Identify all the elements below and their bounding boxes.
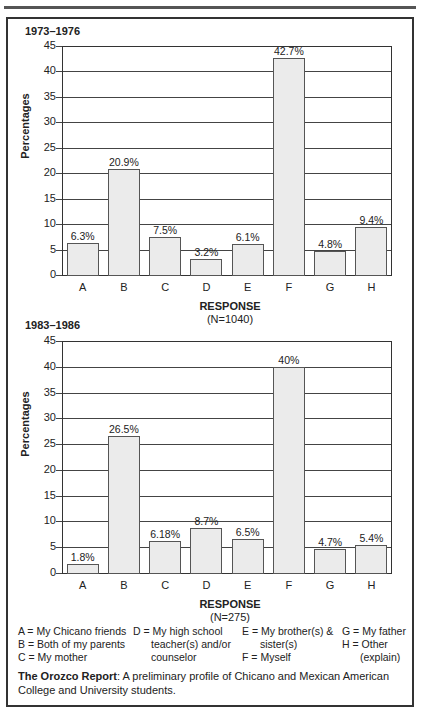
y-tick-label: 40	[34, 64, 56, 76]
bar-c	[149, 541, 181, 574]
x-axis-title: RESPONSE	[150, 598, 310, 610]
bar-e	[232, 539, 264, 574]
legend-item-g: G = My father	[342, 625, 406, 638]
legend-col-1: A = My Chicano friends B = Both of my pa…	[18, 625, 126, 664]
legend-item-h-cont: (explain)	[342, 651, 406, 664]
bar-value-label: 6.1%	[226, 231, 270, 243]
legend-item-d-cont: teacher(s) and/or	[133, 638, 231, 651]
y-axis-label: Percentages	[19, 379, 31, 469]
x-category-label: H	[361, 281, 381, 293]
legend-item-e: E = My brother(s) &	[242, 625, 333, 638]
legend-col-2: D = My high school teacher(s) and/or cou…	[133, 625, 231, 664]
x-category-label: F	[279, 579, 299, 591]
x-category-label: D	[196, 579, 216, 591]
bar-d	[190, 528, 222, 574]
bar-d	[190, 259, 222, 276]
y-tick-mark	[56, 224, 62, 225]
y-tick-label: 5	[34, 243, 56, 255]
y-tick-label: 25	[34, 141, 56, 153]
y-tick-label: 10	[34, 217, 56, 229]
x-category-label: C	[155, 579, 175, 591]
y-tick-label: 45	[34, 39, 56, 51]
y-tick-label: 15	[34, 489, 56, 501]
gridline	[63, 71, 391, 72]
bar-g	[314, 549, 346, 574]
y-tick-mark	[56, 46, 62, 47]
x-category-label: H	[361, 579, 381, 591]
y-tick-mark	[56, 547, 62, 548]
x-category-label: D	[196, 281, 216, 293]
bar-a	[67, 243, 99, 276]
gridline	[63, 97, 391, 98]
gridline	[63, 418, 391, 419]
bar-value-label: 4.8%	[308, 238, 352, 250]
x-axis-sample-size: (N=275)	[150, 611, 310, 623]
y-tick-label: 20	[34, 166, 56, 178]
y-tick-label: 25	[34, 437, 56, 449]
bar-value-label: 8.7%	[184, 515, 228, 527]
gridline	[63, 367, 391, 368]
y-tick-label: 35	[34, 90, 56, 102]
gridline	[63, 122, 391, 123]
bar-value-label: 9.4%	[349, 214, 393, 226]
legend-item-f: F = Myself	[242, 651, 333, 664]
gridline	[63, 393, 391, 394]
bar-value-label: 3.2%	[184, 246, 228, 258]
x-category-label: E	[238, 579, 258, 591]
bar-c	[149, 237, 181, 276]
y-tick-mark	[56, 275, 62, 276]
y-tick-label: 10	[34, 514, 56, 526]
legend-col-3: E = My brother(s) & sister(s) F = Myself	[242, 625, 333, 664]
y-tick-mark	[56, 148, 62, 149]
x-category-label: B	[114, 281, 134, 293]
bar-value-label: 1.8%	[61, 551, 105, 563]
x-category-label: C	[155, 281, 175, 293]
x-category-label: A	[73, 579, 93, 591]
legend-item-e-cont: sister(s)	[242, 638, 333, 651]
y-tick-label: 45	[34, 334, 56, 346]
legend-item-h: H = Other	[342, 638, 406, 651]
y-axis-label: Percentages	[19, 81, 31, 171]
bar-value-label: 5.4%	[349, 532, 393, 544]
x-category-label: A	[73, 281, 93, 293]
y-tick-mark	[56, 122, 62, 123]
bar-b	[108, 169, 140, 276]
legend-item-d-cont2: counselor	[133, 651, 231, 664]
x-axis-sample-size: (N=1040)	[150, 313, 310, 325]
bar-value-label: 4.7%	[308, 536, 352, 548]
bar-b	[108, 436, 140, 574]
y-tick-label: 5	[34, 540, 56, 552]
legend-item-d: D = My high school	[133, 625, 231, 638]
y-tick-mark	[56, 418, 62, 419]
legend-item-c: C = My mother	[18, 651, 126, 664]
x-category-label: G	[320, 281, 340, 293]
y-tick-mark	[56, 573, 62, 574]
y-tick-mark	[56, 521, 62, 522]
y-tick-label: 15	[34, 192, 56, 204]
bar-value-label: 40%	[267, 354, 311, 366]
x-axis-title: RESPONSE	[150, 300, 310, 312]
y-tick-label: 30	[34, 411, 56, 423]
bar-a	[67, 564, 99, 574]
y-tick-mark	[56, 470, 62, 471]
y-tick-mark	[56, 444, 62, 445]
y-tick-label: 40	[34, 360, 56, 372]
bar-value-label: 20.9%	[102, 156, 146, 168]
y-tick-mark	[56, 393, 62, 394]
bar-f	[273, 367, 305, 574]
y-tick-mark	[56, 250, 62, 251]
y-tick-mark	[56, 71, 62, 72]
header-rule	[4, 6, 416, 9]
y-tick-mark	[56, 367, 62, 368]
caption-source-title: The Orozco Report	[18, 670, 117, 682]
bar-value-label: 6.5%	[226, 526, 270, 538]
y-tick-label: 20	[34, 463, 56, 475]
x-category-label: B	[114, 579, 134, 591]
bar-h	[355, 227, 387, 276]
bar-value-label: 6.3%	[61, 230, 105, 242]
legend-item-a: A = My Chicano friends	[18, 625, 126, 638]
y-tick-label: 35	[34, 386, 56, 398]
chart-period-title: 1973–1976	[25, 25, 80, 37]
chart-period-title: 1983–1986	[25, 319, 80, 331]
legend-item-b: B = Both of my parents	[18, 638, 126, 651]
